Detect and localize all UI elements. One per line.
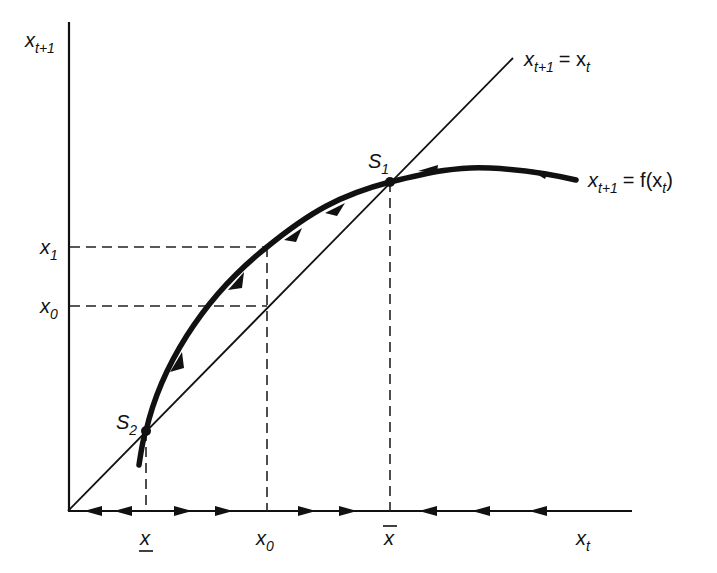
phase-diagram: xt+1 xt xt+1= xt xt+1= f(xt) S1 S2 x1 x0… <box>0 0 717 573</box>
s1-point <box>385 177 395 187</box>
x-tick-upper-bound: x <box>383 527 395 549</box>
curve-arrows <box>170 165 548 372</box>
s1-label: S1 <box>368 150 389 177</box>
y-tick-x1: x1 <box>39 236 58 263</box>
y-axis-label: xt+1 <box>24 29 55 56</box>
s2-point <box>141 426 151 436</box>
identity-line-label: xt+1= xt <box>523 48 591 75</box>
curve-label: xt+1= f(xt) <box>587 169 673 196</box>
x-axis-label: xt <box>575 527 591 554</box>
x-tick-x0: x0 <box>255 527 274 554</box>
x-tick-lower-bound: x <box>139 527 151 549</box>
function-curve <box>139 168 576 465</box>
identity-line <box>68 58 513 511</box>
s2-label: S2 <box>116 411 137 438</box>
y-tick-x0: x0 <box>39 295 58 322</box>
